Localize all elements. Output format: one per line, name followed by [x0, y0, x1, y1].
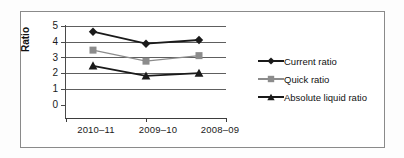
chart-figure: Ratio 5 4 3 2 1 0 2010–11 2009–10 2008–0… [0, 0, 404, 158]
gridline-5 [66, 26, 226, 27]
gridline-4 [66, 42, 226, 43]
diamond-marker-icon [258, 54, 284, 68]
legend-item-current-ratio: Current ratio [258, 52, 382, 70]
y-tick-label-3: 3 [38, 53, 58, 63]
x-tick-1 [146, 118, 147, 122]
legend-item-absolute-liquid-ratio: Absolute liquid ratio [258, 88, 382, 106]
y-tick-label-4: 4 [38, 37, 58, 47]
legend-label-absolute-liquid-ratio: Absolute liquid ratio [284, 92, 367, 103]
y-tick-label-1: 1 [38, 84, 58, 94]
legend-item-quick-ratio: Quick ratio [258, 70, 382, 88]
square-marker-icon [258, 72, 284, 86]
x-tick-2 [226, 118, 227, 122]
y-axis-label: Ratio [20, 27, 31, 52]
gridline-2 [66, 73, 226, 74]
y-tick-label-5: 5 [38, 21, 58, 31]
y-tick-label-0: 0 [38, 100, 58, 110]
legend-label-quick-ratio: Quick ratio [284, 74, 329, 85]
legend-label-current-ratio: Current ratio [284, 56, 337, 67]
x-tick-label-0: 2010–11 [69, 124, 123, 135]
gridline-1 [66, 89, 226, 90]
x-tick-label-2: 2008–09 [193, 124, 247, 135]
gridline-3 [66, 57, 226, 58]
x-tick-0 [66, 118, 67, 122]
triangle-marker-icon [258, 90, 284, 104]
y-tick-label-2: 2 [38, 68, 58, 78]
x-tick-label-1: 2009–10 [131, 124, 185, 135]
y-axis-line [65, 25, 66, 119]
chart-legend: Current ratio Quick ratio Absolute liqui… [258, 52, 382, 106]
plot-area [66, 26, 226, 118]
